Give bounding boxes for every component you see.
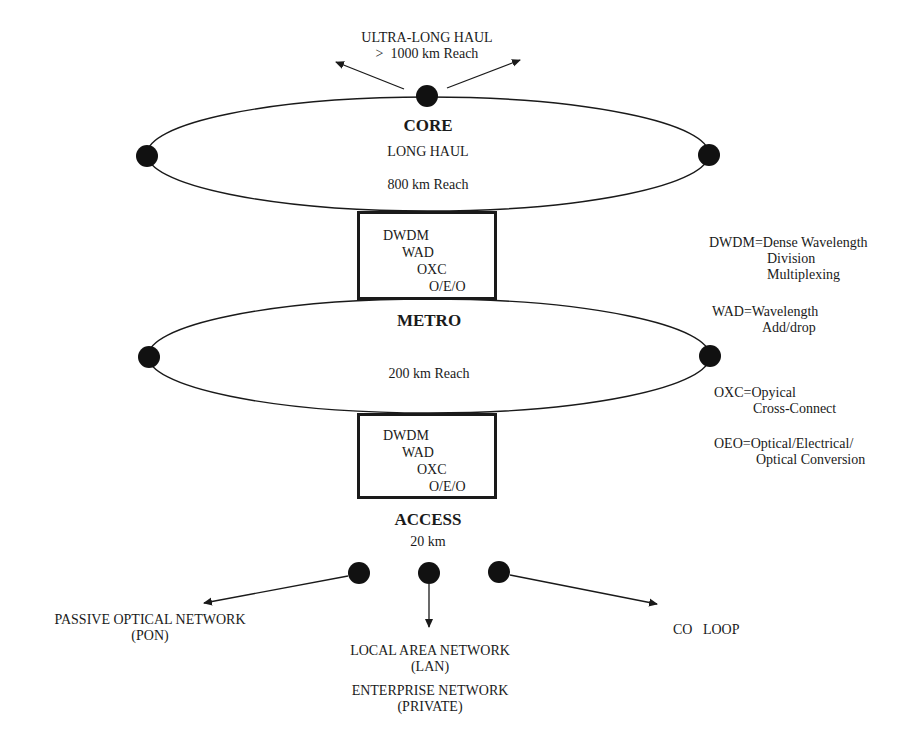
core-subtitle: LONG HAUL bbox=[387, 144, 468, 160]
legend-wad-line1: WAD=Wavelength bbox=[712, 304, 818, 320]
access-title: ACCESS bbox=[394, 512, 461, 528]
box1-dwdm: DWDM bbox=[383, 228, 429, 244]
enterprise-title: ENTERPRISE NETWORK bbox=[350, 683, 510, 699]
metro-title: METRO bbox=[397, 313, 461, 329]
lan-title: LOCAL AREA NETWORK bbox=[350, 643, 510, 659]
co-loop-arrow bbox=[510, 575, 657, 604]
core-node-right bbox=[698, 144, 720, 166]
legend-oeo-line2: Optical Conversion bbox=[714, 452, 865, 468]
legend-oxc: OXC=Opyical Cross-Connect bbox=[714, 385, 836, 417]
ultra-long-haul-title: ULTRA-LONG HAUL bbox=[361, 30, 492, 46]
co-loop-label: CO LOOP bbox=[673, 622, 740, 638]
legend-wad: WAD=Wavelength Add/drop bbox=[712, 304, 818, 336]
pon-label: PASSIVE OPTICAL NETWORK (PON) bbox=[54, 612, 245, 644]
box1-wad: WAD bbox=[402, 245, 434, 261]
ultra-long-haul-arrow-left bbox=[336, 62, 404, 89]
metro-reach: 200 km Reach bbox=[389, 366, 470, 382]
ultra-long-haul-reach: > 1000 km Reach bbox=[361, 46, 492, 62]
legend-wad-line2: Add/drop bbox=[712, 320, 818, 336]
box1-oxc: OXC bbox=[417, 262, 447, 278]
core-title: CORE bbox=[403, 118, 452, 134]
core-metro-interconnect-box: DWDM WAD OXC O/E/O bbox=[357, 211, 497, 300]
pon-title: PASSIVE OPTICAL NETWORK bbox=[54, 612, 245, 628]
ultra-long-haul-label: ULTRA-LONG HAUL > 1000 km Reach bbox=[361, 30, 492, 62]
legend-dwdm-line3: Multiplexing bbox=[709, 267, 868, 283]
metro-node-left bbox=[138, 346, 160, 368]
lan-label: LOCAL AREA NETWORK (LAN) ENTERPRISE NETW… bbox=[350, 643, 510, 715]
pon-arrow bbox=[204, 576, 348, 603]
box2-oxc: OXC bbox=[417, 462, 447, 478]
legend-dwdm-line2: Division bbox=[709, 251, 868, 267]
metro-access-interconnect-box: DWDM WAD OXC O/E/O bbox=[357, 413, 497, 499]
metro-node-right bbox=[699, 345, 721, 367]
access-node-pon bbox=[348, 562, 370, 584]
legend-oxc-line1: OXC=Opyical bbox=[714, 385, 836, 401]
legend-oxc-line2: Cross-Connect bbox=[714, 401, 836, 417]
legend-dwdm: DWDM=Dense Wavelength Division Multiplex… bbox=[709, 235, 868, 283]
box2-oeo: O/E/O bbox=[429, 479, 466, 495]
core-node-top bbox=[416, 85, 438, 107]
legend-oeo: OEO=Optical/Electrical/ Optical Conversi… bbox=[714, 436, 865, 468]
ultra-long-haul-arrow-right bbox=[447, 60, 520, 88]
access-reach: 20 km bbox=[410, 534, 445, 550]
box2-wad: WAD bbox=[402, 445, 434, 461]
access-node-lan bbox=[418, 562, 440, 584]
legend-dwdm-line1: DWDM=Dense Wavelength bbox=[709, 235, 868, 251]
box2-dwdm: DWDM bbox=[383, 428, 429, 444]
lan-abbrev: (LAN) bbox=[350, 659, 510, 675]
core-node-left bbox=[136, 145, 158, 167]
access-node-co-loop bbox=[488, 561, 510, 583]
pon-abbrev: (PON) bbox=[54, 628, 245, 644]
legend-oeo-line1: OEO=Optical/Electrical/ bbox=[714, 436, 865, 452]
enterprise-abbrev: (PRIVATE) bbox=[350, 699, 510, 715]
core-reach: 800 km Reach bbox=[388, 177, 469, 193]
box1-oeo: O/E/O bbox=[429, 279, 466, 295]
